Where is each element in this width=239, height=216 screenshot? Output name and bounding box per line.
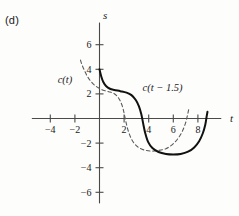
x-tick-label: −4	[45, 124, 56, 135]
y-axis-label: s	[103, 9, 107, 21]
x-tick-label: 4	[146, 124, 151, 135]
y-tick-label: 6	[87, 39, 92, 50]
x-tick-label: 2	[122, 124, 127, 135]
x-tick-label: 8	[195, 124, 200, 135]
curve-label: c(t)	[58, 74, 73, 86]
y-tick-label: −6	[81, 187, 92, 198]
y-tick-label: 4	[87, 64, 92, 75]
curve-label: c(t − 1.5)	[143, 82, 184, 94]
plot-canvas: −4−22468 642−2−4−6 c(t)c(t − 1.5) t s	[0, 0, 239, 216]
x-tick-label: −2	[70, 124, 81, 135]
axes-group	[32, 23, 221, 204]
x-tick-label: 6	[171, 124, 176, 135]
x-axis-label: t	[230, 112, 234, 124]
y-tick-label: −4	[81, 162, 92, 173]
figure-panel: (d) −4−22468 642−2−4−6 c(t)c(t − 1.5) t …	[0, 0, 239, 216]
y-tick-label: −2	[81, 138, 92, 149]
curve-c-of-t	[80, 60, 188, 151]
y-tick-label: 2	[87, 88, 92, 99]
x-axis-tick-labels: −4−22468	[45, 124, 200, 135]
